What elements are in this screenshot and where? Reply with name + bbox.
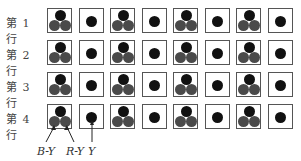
annotation-arrows bbox=[0, 0, 301, 161]
y-label: Y bbox=[88, 145, 95, 158]
r-y-label: R-Y bbox=[66, 145, 84, 158]
b-y-label: B-Y bbox=[37, 145, 55, 158]
